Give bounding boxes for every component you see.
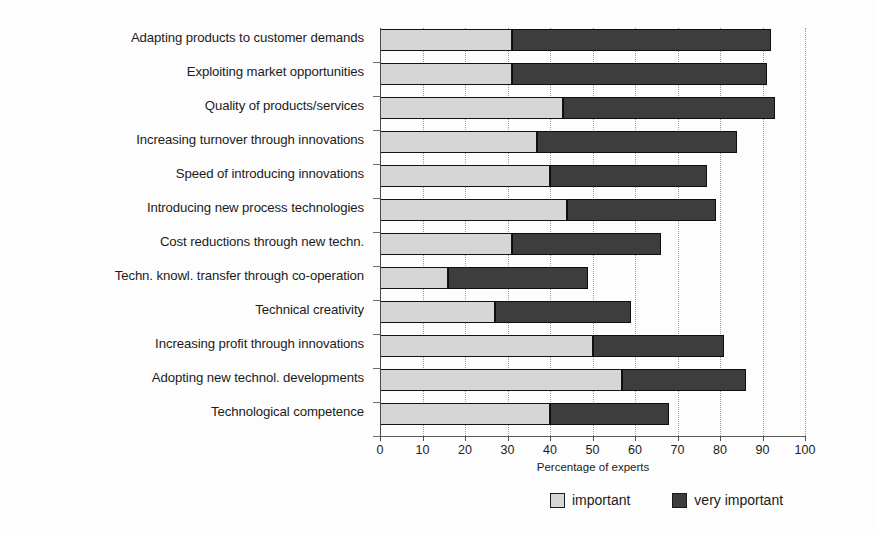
- bar-segment-very-important[interactable]: [512, 29, 771, 51]
- bar-row[interactable]: [380, 335, 805, 357]
- bar-segment-important[interactable]: [380, 97, 563, 119]
- category-label: Techn. knowl. transfer through co-operat…: [0, 268, 364, 283]
- x-tick-mark: [720, 436, 721, 441]
- bar-row[interactable]: [380, 301, 805, 323]
- category-label: Adapting products to customer demands: [0, 30, 364, 45]
- category-label: Technical creativity: [0, 302, 364, 317]
- category-label: Speed of introducing innovations: [0, 166, 364, 181]
- category-label: Adopting new technol. developments: [0, 370, 364, 385]
- bar-segment-important[interactable]: [380, 131, 537, 153]
- bar-segment-important[interactable]: [380, 63, 512, 85]
- bar-segment-important[interactable]: [380, 165, 550, 187]
- category-label: Exploiting market opportunities: [0, 64, 364, 79]
- y-tick-mark: [373, 130, 380, 131]
- bar-segment-very-important[interactable]: [622, 369, 745, 391]
- x-tick-label: 10: [403, 443, 443, 457]
- gridline-100: [805, 28, 806, 436]
- y-tick-mark: [373, 62, 380, 63]
- bar-segment-very-important[interactable]: [563, 97, 776, 119]
- bar-row[interactable]: [380, 29, 805, 51]
- bar-segment-important[interactable]: [380, 335, 593, 357]
- chart-figure: Adapting products to customer demandsExp…: [0, 0, 874, 535]
- category-label: Increasing profit through innovations: [0, 336, 364, 351]
- category-axis-labels: Adapting products to customer demandsExp…: [0, 28, 372, 436]
- x-tick-mark: [678, 436, 679, 441]
- bar-row[interactable]: [380, 369, 805, 391]
- bar-segment-very-important[interactable]: [593, 335, 725, 357]
- x-tick-mark: [763, 436, 764, 441]
- x-tick-label: 60: [615, 443, 655, 457]
- plot-area: [380, 28, 805, 436]
- x-tick-label: 0: [360, 443, 400, 457]
- legend-item-very-important[interactable]: very important: [672, 492, 783, 508]
- legend-label-very-important: very important: [694, 492, 783, 508]
- x-tick-label: 90: [743, 443, 783, 457]
- y-tick-mark: [373, 436, 380, 437]
- bar-segment-important[interactable]: [380, 301, 495, 323]
- bar-segment-important[interactable]: [380, 369, 622, 391]
- x-tick-mark: [465, 436, 466, 441]
- category-label: Quality of products/services: [0, 98, 364, 113]
- bar-segment-very-important[interactable]: [495, 301, 631, 323]
- category-label: Introducing new process technologies: [0, 200, 364, 215]
- x-tick-label: 30: [488, 443, 528, 457]
- bar-segment-very-important[interactable]: [512, 63, 767, 85]
- bar-row[interactable]: [380, 97, 805, 119]
- legend-item-important[interactable]: important: [550, 492, 630, 508]
- bar-segment-very-important[interactable]: [448, 267, 588, 289]
- y-tick-mark: [373, 198, 380, 199]
- bar-segment-important[interactable]: [380, 267, 448, 289]
- bar-segment-very-important[interactable]: [550, 403, 669, 425]
- y-tick-mark: [373, 368, 380, 369]
- bar-segment-very-important[interactable]: [567, 199, 716, 221]
- legend-label-important: important: [572, 492, 630, 508]
- bar-segment-important[interactable]: [380, 199, 567, 221]
- bar-row[interactable]: [380, 63, 805, 85]
- y-tick-mark: [373, 402, 380, 403]
- x-tick-mark: [380, 436, 381, 441]
- y-tick-mark: [373, 266, 380, 267]
- y-axis-line: [380, 28, 381, 437]
- x-tick-label: 100: [785, 443, 825, 457]
- x-tick-label: 50: [573, 443, 613, 457]
- y-tick-mark: [373, 334, 380, 335]
- category-label: Technological competence: [0, 404, 364, 419]
- x-tick-label: 70: [658, 443, 698, 457]
- x-tick-mark: [423, 436, 424, 441]
- dark-gray-swatch-icon: [672, 493, 687, 508]
- bar-segment-very-important[interactable]: [537, 131, 737, 153]
- x-tick-mark: [635, 436, 636, 441]
- y-tick-mark: [373, 164, 380, 165]
- x-tick-mark: [593, 436, 594, 441]
- bar-segment-important[interactable]: [380, 403, 550, 425]
- x-tick-label: 20: [445, 443, 485, 457]
- y-tick-mark: [373, 300, 380, 301]
- category-label: Increasing turnover through innovations: [0, 132, 364, 147]
- bar-row[interactable]: [380, 199, 805, 221]
- x-tick-mark: [550, 436, 551, 441]
- bar-row[interactable]: [380, 165, 805, 187]
- x-tick-mark: [508, 436, 509, 441]
- x-tick-mark: [805, 436, 806, 441]
- bar-segment-very-important[interactable]: [512, 233, 661, 255]
- bar-row[interactable]: [380, 267, 805, 289]
- bar-segment-very-important[interactable]: [550, 165, 707, 187]
- category-label: Cost reductions through new techn.: [0, 234, 364, 249]
- light-gray-swatch-icon: [550, 493, 565, 508]
- bar-segment-important[interactable]: [380, 29, 512, 51]
- bar-row[interactable]: [380, 131, 805, 153]
- x-axis-title: Percentage of experts: [380, 461, 806, 473]
- y-tick-mark: [373, 232, 380, 233]
- bar-row[interactable]: [380, 403, 805, 425]
- y-tick-mark: [373, 96, 380, 97]
- chart-legend: important very important: [550, 492, 783, 508]
- bar-segment-important[interactable]: [380, 233, 512, 255]
- x-tick-label: 80: [700, 443, 740, 457]
- bar-row[interactable]: [380, 233, 805, 255]
- x-tick-label: 40: [530, 443, 570, 457]
